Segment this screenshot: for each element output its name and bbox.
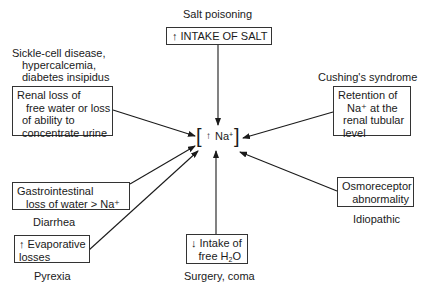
sodium-symbol: Na <box>215 130 229 142</box>
box-evaporative-line: losses <box>19 251 85 264</box>
box-osmoreceptor-line: abnormality <box>342 193 409 206</box>
arrow-renal-to-na <box>113 110 195 136</box>
box-osmoreceptor-abnormality: Osmoreceptor abnormality <box>337 177 414 207</box>
box-water-line-2: free H2O <box>191 250 241 267</box>
box-retention-line: Na⁺ at the <box>338 102 406 115</box>
center-elevated-sodium: [ ↑ Na+ ] <box>196 126 242 148</box>
box-renal-loss-line: concentrate urine <box>17 127 108 140</box>
cause-surgery-coma: Surgery, coma <box>184 270 255 282</box>
cause-cushings-syndrome: Cushing's syndrome <box>318 71 417 83</box>
box-gastrointestinal-loss: Gastrointestinal loss of water > Na⁺ <box>12 182 130 210</box>
hypernatremia-causes-diagram: Salt poisoning ↑ INTAKE OF SALT Sickle-c… <box>0 0 423 289</box>
cause-diabetes-insipidus: diabetes insipidus <box>22 71 109 83</box>
cause-hypercalcemia: hypercalcemia, <box>22 59 96 71</box>
sodium-label: Na+ <box>215 130 233 142</box>
box-renal-loss-line: Renal loss of <box>17 89 108 102</box>
free-h-text: free H <box>199 250 229 262</box>
arrow-gi-to-na <box>130 146 195 184</box>
sodium-charge: + <box>229 131 233 138</box>
box-gi-line: loss of water > Na⁺ <box>17 198 125 211</box>
cause-idiopathic: Idiopathic <box>353 213 400 225</box>
box-renal-loss-line: of ability to <box>17 114 108 127</box>
cause-sickle-cell: Sickle-cell disease, <box>12 47 106 59</box>
box-evaporative-losses: ↑ Evaporative losses <box>14 235 90 263</box>
bracket-open: [ <box>196 126 202 146</box>
o-text: O <box>232 250 241 262</box>
box-retention-line: level <box>338 127 406 140</box>
arrow-retention-to-na <box>243 112 333 138</box>
bracket-close: ] <box>234 126 240 146</box>
box-gi-line: Gastrointestinal <box>17 185 125 198</box>
box-osmoreceptor-line: Osmoreceptor <box>342 180 409 193</box>
box-water-line-1: ↓ Intake of <box>191 237 241 250</box>
cause-salt-poisoning: Salt poisoning <box>183 8 252 20</box>
cause-diarrhea: Diarrhea <box>33 216 75 228</box>
box-renal-loss-line: free water or loss <box>17 102 108 115</box>
cause-pyrexia: Pyrexia <box>34 270 71 282</box>
box-intake-free-water: ↓ Intake of free H2O <box>186 234 248 264</box>
arrow-osmoreceptor-to-na <box>240 152 337 191</box>
box-evaporative-line: ↑ Evaporative <box>19 238 85 251</box>
box-intake-of-salt: ↑ INTAKE OF SALT <box>166 27 272 45</box>
box-sodium-retention: Retention of Na⁺ at the renal tubular le… <box>333 86 411 136</box>
up-arrow-icon: ↑ <box>206 130 211 141</box>
box-renal-loss: Renal loss of free water or loss of abil… <box>12 86 113 136</box>
box-intake-of-salt-text: ↑ INTAKE OF SALT <box>172 30 268 42</box>
box-retention-line: Retention of <box>338 89 406 102</box>
box-retention-line: renal tubular <box>338 114 406 127</box>
